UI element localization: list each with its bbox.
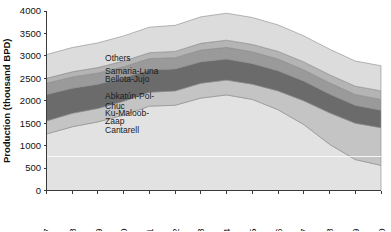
series-annotation: Abkatún-Pol-	[105, 91, 154, 101]
x-tick-label: 2008	[324, 229, 335, 232]
y-tick-label: 3500	[20, 28, 41, 39]
series-annotation: Bellota-Jujo	[105, 74, 150, 84]
y-tick-group: 05001000150020002500300035004000	[20, 5, 47, 196]
x-tick-label: 2010	[376, 229, 387, 232]
chart-canvas: 05001000150020002500300035004000 1997199…	[0, 0, 391, 231]
y-tick-label: 3000	[20, 50, 41, 61]
area-bands-group	[47, 13, 382, 190]
series-annotation: Cantarell	[105, 125, 139, 135]
series-annotation: Others	[105, 53, 131, 63]
x-tick-label: 2007	[298, 229, 309, 232]
x-tick-label: 2003	[195, 229, 206, 232]
y-tick-label: 2500	[20, 73, 41, 84]
y-tick-label: 2000	[20, 95, 41, 106]
y-tick-label: 500	[25, 162, 41, 173]
x-tick-group: 1997199819992000200120022003200420052006…	[41, 191, 387, 232]
x-tick-label: 2002	[170, 229, 181, 232]
x-tick-label: 2000	[118, 229, 129, 232]
x-tick-label: 2005	[247, 229, 258, 232]
x-tick-label: 1998	[67, 229, 78, 232]
y-axis-title: Production (thousand BPD)	[1, 38, 12, 163]
x-tick-label: 2004	[221, 229, 232, 232]
y-tick-label: 1000	[20, 140, 41, 151]
x-tick-label: 2009	[350, 229, 361, 232]
y-tick-label: 1500	[20, 118, 41, 129]
x-tick-label: 2001	[144, 229, 155, 232]
y-tick-label: 4000	[20, 5, 41, 16]
x-tick-label: 2006	[273, 229, 284, 232]
stacked-area-chart: 05001000150020002500300035004000 1997199…	[0, 0, 391, 231]
x-tick-label: 1999	[93, 229, 104, 232]
y-tick-label: 0	[36, 185, 41, 196]
x-tick-label: 1997	[41, 229, 52, 232]
